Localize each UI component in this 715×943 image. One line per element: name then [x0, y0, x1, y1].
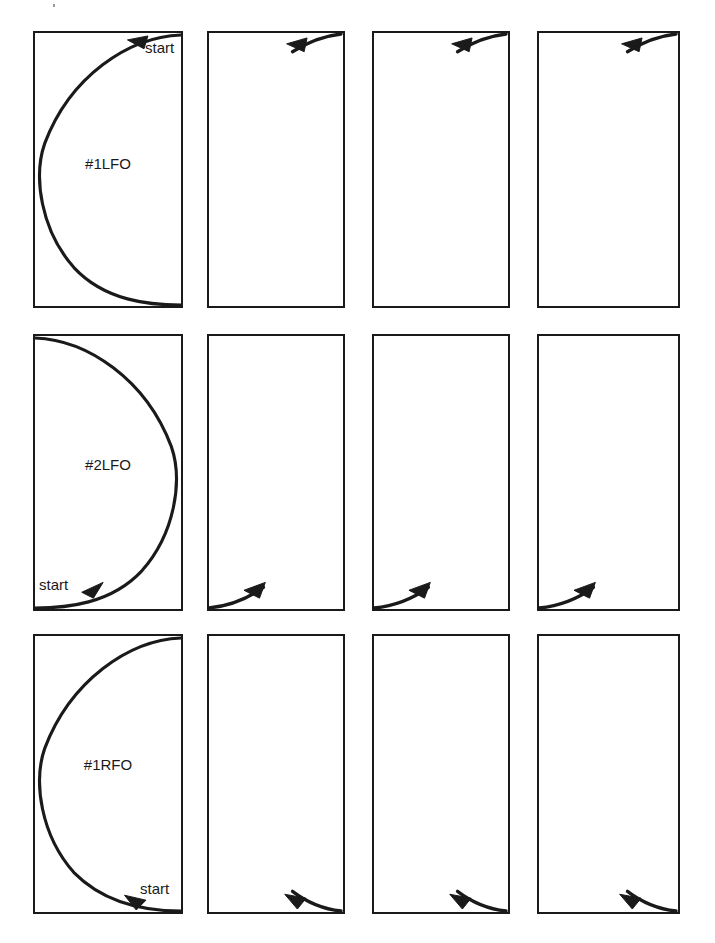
arrow-stub-row3-col4 — [539, 636, 678, 912]
panel-row1-col4[interactable] — [537, 31, 680, 308]
panel-row1-col3[interactable] — [372, 31, 510, 308]
panel-row3-col4[interactable] — [537, 634, 680, 914]
arrow-stub-row1-col3 — [374, 33, 508, 306]
panel-row1-col2[interactable] — [207, 31, 345, 308]
panel-row2-col4[interactable] — [537, 334, 680, 611]
panel-row2-col2[interactable] — [207, 334, 345, 611]
panel-row3-col3[interactable] — [372, 634, 510, 914]
arrow-stub-row2-col3 — [374, 336, 508, 609]
panel-label-row1-start: start — [145, 39, 174, 56]
trajectory-path-row3 — [35, 636, 181, 912]
figure-root: #1LFO start — [0, 0, 715, 943]
panel-row3-col1[interactable]: #1RFO start — [33, 634, 183, 914]
panel-row2-col1[interactable]: #2LFO start — [33, 334, 183, 611]
arrow-stub-row3-col3 — [374, 636, 508, 912]
trajectory-panel-grid: #1LFO start — [0, 0, 715, 943]
arrow-stub-row1-col2 — [209, 33, 343, 306]
panel-row1-col1[interactable]: #1LFO start — [33, 31, 183, 308]
panel-row2-col3[interactable] — [372, 334, 510, 611]
panel-label-row3-start: start — [140, 880, 169, 897]
panel-row3-col2[interactable] — [207, 634, 345, 914]
panel-label-row2-start: start — [39, 576, 68, 593]
arrow-stub-row3-col2 — [209, 636, 343, 912]
panel-label-row3-condition: #1RFO — [84, 756, 132, 773]
panel-label-row2-condition: #2LFO — [85, 456, 131, 473]
panel-label-row1-condition: #1LFO — [85, 155, 131, 172]
arrow-stub-row1-col4 — [539, 33, 678, 306]
arrow-stub-row2-col4 — [539, 336, 678, 609]
arrow-stub-row2-col2 — [209, 336, 343, 609]
